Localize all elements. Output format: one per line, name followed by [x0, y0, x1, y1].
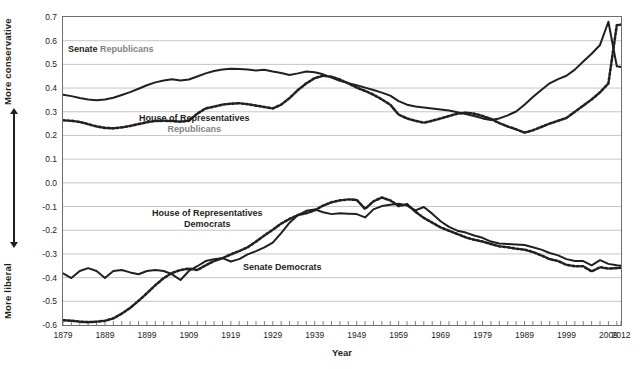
plot-area: [62, 16, 622, 326]
annotation-senate-democrats: Senate Democrats: [243, 262, 322, 273]
x-axis-tick-label: 1989: [515, 330, 534, 340]
annotation-house-democrats-party: Democrats: [152, 219, 263, 230]
y-axis-tick-label: 0.0: [45, 178, 57, 188]
y-axis-tick-label: 0.7: [45, 12, 57, 22]
y-axis-tick-label: 0.5: [45, 59, 57, 69]
x-axis-tick-labels: 1879188918991909191919291939194919591969…: [62, 330, 622, 346]
ideology-direction-axis: More conservative More liberal: [2, 14, 26, 330]
y-axis-tick-label: -0.5: [42, 296, 57, 306]
annotation-senate-republicans-chamber: Senate: [68, 44, 98, 54]
x-axis-tick-label: 1999: [557, 330, 576, 340]
y-axis-tick-label: 0.6: [45, 36, 57, 46]
annotation-house-democrats: House of Representatives Democrats: [152, 208, 263, 231]
x-axis-tick-label: 1879: [54, 330, 73, 340]
y-axis-tick-label: 0.2: [45, 130, 57, 140]
y-axis-tick-label: -0.2: [42, 225, 57, 235]
x-axis-tick-label: 1909: [179, 330, 198, 340]
axis-direction-top-label: More conservative: [2, 14, 26, 110]
y-axis-tick-labels: 0.70.60.50.40.30.20.10.0-0.1-0.2-0.3-0.4…: [26, 14, 60, 330]
y-axis-tick-label: 0.1: [45, 154, 57, 164]
x-axis-tick-label: 1979: [473, 330, 492, 340]
double-arrow-icon: [13, 114, 15, 242]
y-axis-tick-label: -0.4: [42, 273, 57, 283]
annotation-senate-democrats-label: Senate Democrats: [243, 262, 322, 272]
x-axis-tick-label: 1919: [221, 330, 240, 340]
annotation-house-republicans: House of Representatives Republicans: [139, 113, 250, 136]
series-canvas: [63, 17, 621, 325]
annotation-house-republicans-chamber: House of Representatives: [139, 113, 250, 124]
y-axis-tick-label: 0.3: [45, 107, 57, 117]
x-axis-tick-label: 1969: [431, 330, 450, 340]
y-axis-tick-label: -0.6: [42, 320, 57, 330]
annotation-senate-republicans: Senate Republicans: [68, 44, 154, 55]
x-axis-tick-label: 1899: [137, 330, 156, 340]
series-line-1: [63, 22, 621, 120]
annotation-house-democrats-chamber: House of Representatives: [152, 208, 263, 219]
x-axis-tick-label: 2012: [612, 330, 631, 340]
x-axis-tick-label: 1889: [95, 330, 114, 340]
polarization-chart: More conservative More liberal 0.70.60.5…: [0, 0, 644, 369]
y-axis-tick-label: 0.4: [45, 83, 57, 93]
y-axis-tick-label: -0.1: [42, 202, 57, 212]
series-line-4: [63, 198, 621, 323]
x-axis-tick-label: 1959: [389, 330, 408, 340]
x-axis-title: Year: [62, 347, 622, 358]
annotation-house-republicans-party: Republicans: [139, 124, 250, 135]
x-axis-tick-label: 1929: [263, 330, 282, 340]
x-axis-tick-label: 1949: [347, 330, 366, 340]
y-axis-tick-label: -0.3: [42, 249, 57, 259]
x-axis-tick-label: 1939: [305, 330, 324, 340]
annotation-senate-republicans-party: Republicans: [100, 44, 154, 54]
series-line-3: [63, 204, 621, 280]
axis-direction-bottom-label: More liberal: [2, 252, 26, 330]
